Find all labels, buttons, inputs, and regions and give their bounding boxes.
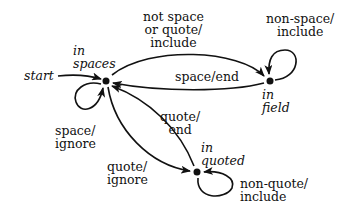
start-arrow: [58, 75, 101, 79]
edge-field-to-spaces: [113, 83, 264, 90]
edge-label-spaces-to-quoted: quote/ ignore: [107, 160, 148, 186]
state-node-quoted: [194, 169, 201, 176]
edge-label-quoted-to-spaces: quote/ end: [160, 110, 200, 136]
edge-label-spaces-to-field: not space or quote/ include: [143, 10, 204, 49]
edge-field-self-loop: [269, 50, 296, 80]
edge-quoted-self-loop: [198, 172, 233, 196]
edge-label-field-self-loop: non-space/ include: [266, 12, 334, 38]
start-label: start: [24, 69, 54, 82]
state-label-spaces: in spaces: [73, 44, 116, 70]
state-node-spaces: [103, 78, 110, 85]
edge-label-quoted-self-loop: non-quote/ include: [240, 177, 308, 203]
state-node-field: [267, 78, 274, 85]
edge-label-spaces-self-loop: space/ ignore: [55, 124, 96, 150]
state-label-quoted: in quoted: [201, 141, 245, 167]
state-label-field: in field: [262, 88, 290, 114]
edge-label-field-to-spaces: space/end: [175, 70, 239, 83]
edge-spaces-self-loop: [75, 83, 103, 109]
